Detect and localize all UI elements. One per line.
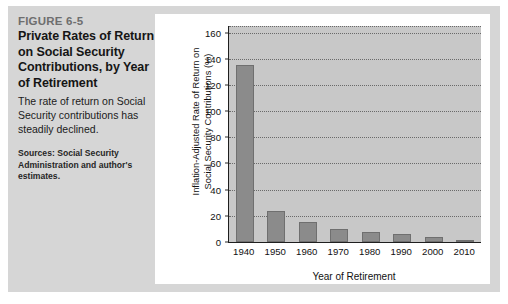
- y-tick-label: 20: [210, 210, 221, 221]
- bar-slot: [292, 26, 324, 242]
- figure-frame: FIGURE 6-5 Private Rates of Return on So…: [8, 6, 500, 292]
- bar-slot: [418, 26, 450, 242]
- chart-panel: Inflation-Adjusted Rate of Return on Soc…: [155, 14, 490, 284]
- x-axis-title: Year of Retirement: [228, 271, 480, 282]
- bar-1940: [236, 65, 254, 242]
- y-tick-label: 160: [205, 27, 221, 38]
- bar-2000: [425, 237, 443, 242]
- figure-number: FIGURE 6-5: [18, 14, 160, 28]
- x-tick-label: 1970: [323, 246, 355, 257]
- bar-slot: [387, 26, 419, 242]
- bar-1960: [299, 222, 317, 242]
- x-tick-label: 1960: [291, 246, 323, 257]
- y-tick-label: 60: [210, 158, 221, 169]
- bar-1950: [267, 211, 285, 242]
- y-tick-label: 140: [205, 53, 221, 64]
- y-tick-label: 40: [210, 184, 221, 195]
- bar-1980: [362, 232, 380, 242]
- x-tick-label: 2000: [417, 246, 449, 257]
- bar-slot: [324, 26, 356, 242]
- x-tick-label: 1940: [228, 246, 260, 257]
- y-tick-label: 80: [210, 132, 221, 143]
- bar-1990: [393, 234, 411, 242]
- bar-slot: [261, 26, 293, 242]
- figure-caption-column: FIGURE 6-5 Private Rates of Return on So…: [18, 14, 160, 284]
- bar-slot: [355, 26, 387, 242]
- x-tick-label: 1950: [260, 246, 292, 257]
- figure-description: The rate of return on Social Security co…: [18, 94, 160, 136]
- bar-slot: [450, 26, 482, 242]
- y-tick-label: 100: [205, 106, 221, 117]
- x-axis-ticks: 19401950196019701980199020002010: [228, 246, 480, 257]
- bar-series: [229, 26, 481, 242]
- bar-slot: [229, 26, 261, 242]
- x-tick-label: 1990: [386, 246, 418, 257]
- x-tick-label: 2010: [449, 246, 481, 257]
- y-tick-label: 120: [205, 79, 221, 90]
- figure-sources: Sources: Social Security Administration …: [18, 148, 160, 183]
- bar-1970: [330, 229, 348, 242]
- y-tick-label: 0: [216, 237, 221, 248]
- y-axis-ticks: 020406080100120140160: [197, 26, 225, 242]
- plot-area: [228, 26, 481, 243]
- x-tick-label: 1980: [354, 246, 386, 257]
- plot-wrapper: 020406080100120140160 194019501960197019…: [197, 26, 480, 271]
- figure-title: Private Rates of Return on Social Securi…: [18, 29, 160, 91]
- bar-2010: [456, 240, 474, 242]
